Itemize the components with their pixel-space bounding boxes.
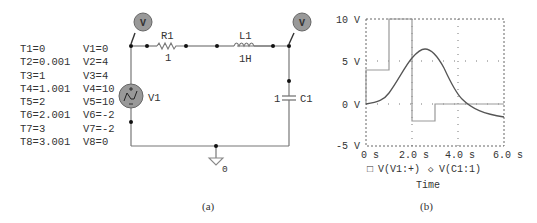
x-tick-label: 6.0 s [493, 150, 523, 161]
x-tick-label: 0 s [361, 150, 379, 161]
y-tick-label: 5 V [342, 57, 360, 68]
plot-frame [366, 19, 504, 146]
v1-name: V1 [148, 92, 161, 104]
l1-name: L1 [239, 30, 252, 42]
r1-value: 1 [165, 52, 171, 64]
x-tick-label: 4.0 s [445, 150, 475, 161]
series-vsource-trace [366, 19, 504, 121]
caption-a: (a) [202, 200, 214, 212]
legend-label: V(V1:+) [378, 164, 420, 175]
l1-value: 1H [239, 53, 252, 65]
y-tick-label: 10 V [336, 15, 360, 26]
pwl-voltage-source-icon [119, 84, 143, 108]
c1-value: 1 [274, 93, 280, 105]
ground-label: 0 [222, 164, 228, 175]
capacitor-c1-icon [282, 96, 296, 100]
waveform-plot: 10 V 5 V 0 V -5 V 0 s 2.0 s 4.0 s 6.0 s … [336, 15, 523, 191]
x-tick-label: 2.0 s [399, 150, 429, 161]
y-tick-label: 0 V [342, 100, 360, 111]
legend-marker-square-icon: □ [367, 164, 373, 175]
c1-name: C1 [300, 93, 313, 105]
y-tick-label: -5 V [336, 141, 360, 152]
legend-marker-diamond-icon: ◇ [428, 165, 434, 175]
caption-b: (b) [420, 200, 433, 212]
resistor-r1-icon [157, 43, 186, 49]
ground-icon [209, 158, 223, 165]
legend-label: V(C1:1) [439, 164, 481, 175]
circuit-schematic: V V R1 1 L1 1H 1 C1 V1 0 10 V 5 V 0 V -5… [0, 0, 537, 223]
r1-name: R1 [161, 30, 174, 42]
probe-right-label: V [299, 18, 305, 29]
x-axis-title: Time [416, 180, 440, 191]
probe-left-label: V [140, 18, 146, 29]
